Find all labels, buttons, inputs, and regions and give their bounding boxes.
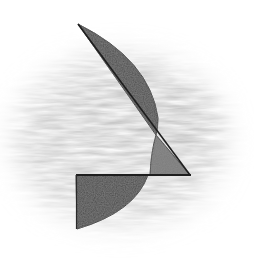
pencil-drawing: [0, 0, 254, 264]
